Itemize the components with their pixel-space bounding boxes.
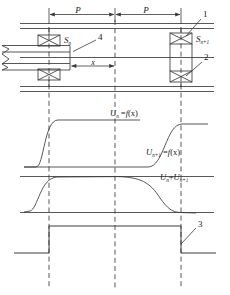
callout-4-leader [73,40,96,52]
displacement-label: x [90,58,95,67]
callout-3-label: 3 [198,219,203,229]
pitch-left-label: P [74,5,81,15]
wave-sum-curve [24,177,196,213]
shaft-break-symbol [2,46,9,71]
coil-sn1-label: Sn+1 [196,34,210,45]
coil-sn-label: Sn [64,35,72,46]
wave-un1-curve [24,124,208,167]
callout-1-label: 1 [203,9,208,19]
wave-sum-label: Un+Un+1 [160,172,189,183]
diagram-canvas: P P x Sn Sn+1 1 2 3 4 Un =f(x) Un+1 =f(x… [0,0,230,295]
wave-un1-label: Un+1 =f(x) [146,147,180,158]
callout-4-label: 4 [98,32,103,42]
pitch-right-label: P [142,5,149,15]
callout-2-leader [186,62,202,76]
callout-2-label: 2 [204,52,209,62]
sensor-schematic-svg: P P x Sn Sn+1 1 2 3 4 Un =f(x) Un+1 =f(x… [0,0,230,295]
wave-un-label: Un =f(x) [110,108,138,119]
callout-3-leader [181,228,196,244]
wave-un-curve [24,120,140,167]
